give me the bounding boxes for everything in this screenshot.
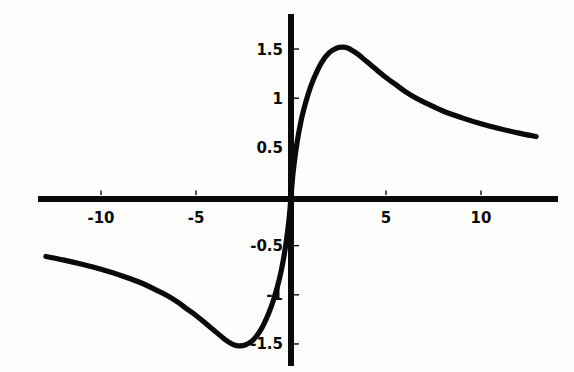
y-tick-label-4: -1 (266, 286, 283, 304)
plot-canvas: -10-5510 1.510.5-0.5-1-1.5 (0, 0, 574, 372)
y-tick-label-0: 1.5 (256, 41, 283, 59)
y-tick-label-1: 1 (273, 90, 283, 108)
x-tick-label-2: 5 (381, 209, 391, 227)
plot-figure: -10-5510 1.510.5-0.5-1-1.5 (0, 0, 574, 372)
x-tick-label-3: 10 (471, 209, 492, 227)
x-tick-label-1: -5 (188, 209, 205, 227)
y-tick-label-3: -0.5 (250, 237, 283, 255)
y-tick-label-5: -1.5 (250, 335, 283, 353)
x-tick-label-0: -10 (87, 209, 114, 227)
y-tick-label-2: 0.5 (256, 139, 283, 157)
